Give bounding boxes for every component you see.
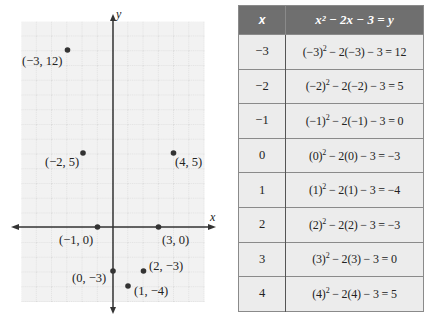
- point-neg1-0: [95, 224, 101, 230]
- point-3-0: [156, 224, 162, 230]
- cell-x: −1: [239, 104, 286, 139]
- cell-expression: (0)2 − 2(0) − 3 = −3: [286, 138, 424, 173]
- header-expression: x² − 2x − 3 = y: [286, 6, 424, 35]
- point-label: (−2, 5): [45, 155, 79, 169]
- cell-x: 4: [239, 277, 286, 312]
- table-header-row: x x² − 2x − 3 = y: [239, 6, 424, 35]
- cell-x: −3: [239, 35, 286, 70]
- x-axis-left-arrow-icon: [11, 224, 19, 230]
- point-label: (0, −3): [72, 271, 106, 285]
- cell-expression: (−2)2 − 2(−2) − 3 = 5: [286, 69, 424, 104]
- point-label: (3, 0): [162, 233, 189, 247]
- point-neg3-12: [65, 47, 71, 53]
- y-axis-down-arrow-icon: [110, 307, 116, 314]
- point-1-neg4: [125, 283, 131, 289]
- table-row: 1(1)2 − 2(1) − 3 = −4: [239, 173, 424, 208]
- cell-expression: (2)2 − 2(2) − 3 = −3: [286, 207, 424, 242]
- values-table: x x² − 2x − 3 = y −3(−3)2 − 2(−3) − 3 = …: [238, 5, 424, 312]
- point-label: (−1, 0): [59, 233, 93, 247]
- y-axis-label: y: [115, 7, 122, 21]
- coordinate-graph: x y (−3, 12) (−2, 5) (−1, 0) (0, −3) (1,…: [0, 0, 232, 330]
- point-label: (−3, 12): [22, 54, 62, 68]
- cell-expression: (−3)2 − 2(−3) − 3 = 12: [286, 35, 424, 70]
- cell-expression: (1)2 − 2(1) − 3 = −4: [286, 173, 424, 208]
- point-neg2-5: [80, 150, 86, 156]
- cell-expression: (4)2 − 2(4) − 3 = 5: [286, 277, 424, 312]
- cell-x: 3: [239, 242, 286, 277]
- table-row: −3(−3)2 − 2(−3) − 3 = 12: [239, 35, 424, 70]
- cell-x: −2: [239, 69, 286, 104]
- cell-x: 0: [239, 138, 286, 173]
- header-x: x: [239, 6, 286, 35]
- table-row: 0(0)2 − 2(0) − 3 = −3: [239, 138, 424, 173]
- table-row: 3(3)2 − 2(3) − 3 = 0: [239, 242, 424, 277]
- table-row: 2(2)2 − 2(2) − 3 = −3: [239, 207, 424, 242]
- x-axis-label: x: [209, 210, 216, 224]
- x-axis-right-arrow-icon: [208, 224, 216, 230]
- cell-expression: (3)2 − 2(3) − 3 = 0: [286, 242, 424, 277]
- table-row: −2(−2)2 − 2(−2) − 3 = 5: [239, 69, 424, 104]
- cell-x: 2: [239, 207, 286, 242]
- cell-x: 1: [239, 173, 286, 208]
- point-0-neg3: [110, 268, 116, 274]
- point-label: (1, −4): [134, 284, 168, 298]
- point-2-neg3: [141, 268, 147, 274]
- table-row: 4(4)2 − 2(4) − 3 = 5: [239, 277, 424, 312]
- cell-expression: (−1)2 − 2(−1) − 3 = 0: [286, 104, 424, 139]
- table-row: −1(−1)2 − 2(−1) − 3 = 0: [239, 104, 424, 139]
- point-label: (4, 5): [175, 155, 202, 169]
- point-label: (2, −3): [149, 259, 183, 273]
